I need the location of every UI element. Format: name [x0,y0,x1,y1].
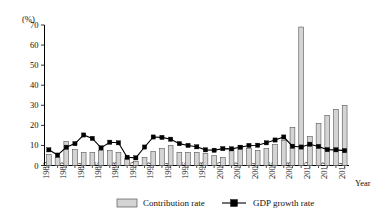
bar [229,149,234,165]
data-point-marker [325,148,329,152]
bar [307,136,312,165]
data-point-marker [177,142,181,146]
bar [342,105,347,165]
bar [168,145,173,165]
chart-container: (%) Year 010203040506070 198019821984198… [0,0,388,219]
y-axis-ticks: 010203040506070 [30,20,45,171]
data-point-marker [125,155,129,159]
bar [273,144,278,165]
bar [116,152,121,165]
y-tick-label: 40 [30,80,39,90]
data-point-marker [316,144,320,148]
data-point-marker [334,148,338,152]
x-axis-title: Year [355,178,371,188]
bar [90,152,95,165]
data-point-marker [99,146,103,150]
data-point-marker [221,147,225,151]
y-tick-label: 60 [30,40,39,50]
data-point-marker [186,143,190,147]
data-point-marker [264,141,268,145]
data-point-marker [134,156,138,160]
bar [46,154,51,165]
bar [203,153,208,165]
y-tick-label: 50 [30,60,39,70]
y-tick-label: 0 [34,161,38,171]
y-tick-label: 10 [30,140,39,150]
data-point-marker [195,145,199,149]
legend-label-contribution-rate: Contribution rate [143,198,205,208]
data-point-marker [247,143,251,147]
bar [177,152,182,165]
data-point-marker [290,144,294,148]
data-point-marker [343,149,347,153]
y-tick-label: 30 [30,100,39,110]
data-point-marker [55,153,59,157]
y-tick-label: 70 [30,20,39,30]
bar [133,161,138,165]
data-point-marker [82,133,86,137]
data-point-marker [151,135,155,139]
data-point-marker [108,140,112,144]
bar [142,157,147,165]
data-point-marker [73,142,77,146]
bar [107,150,112,165]
bar [212,155,217,165]
data-point-marker [90,136,94,140]
legend-label-gdp-growth-rate: GDP growth rate [253,198,314,208]
bar [255,150,260,165]
bar [186,152,191,165]
bar [55,157,60,165]
data-point-marker [212,148,216,152]
legend-swatch-contribution-rate [117,199,137,207]
data-point-marker [308,142,312,146]
data-point-marker [299,145,303,149]
bar [281,140,286,165]
bar [73,149,78,165]
bar [151,151,156,165]
data-point-marker [273,138,277,142]
data-point-marker [160,135,164,139]
bar [264,148,269,165]
data-point-marker [142,145,146,149]
data-point-marker [256,143,260,147]
bar [99,150,104,165]
bar [81,152,86,165]
y-tick-label: 20 [30,120,39,130]
bar [160,148,165,165]
data-point-marker [203,148,207,152]
bar [220,157,225,165]
bar [247,148,252,165]
data-point-marker [282,135,286,139]
bar [325,115,330,165]
bar [299,27,304,165]
chart-legend: Contribution rate GDP growth rate [117,198,314,208]
bar [334,109,339,165]
data-point-marker [64,145,68,149]
data-point-marker [47,148,51,152]
bar-line-combo-chart: (%) Year 010203040506070 198019821984198… [0,0,388,219]
data-point-marker [169,137,173,141]
bar [194,152,199,165]
data-point-marker [238,145,242,149]
data-point-marker [229,147,233,151]
data-point-marker [116,141,120,145]
legend-marker-gdp-growth-rate [231,200,238,207]
